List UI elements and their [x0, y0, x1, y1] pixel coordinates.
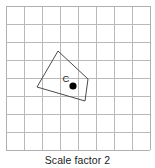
grid-lines — [6, 6, 150, 150]
center-point-group: C — [63, 73, 77, 90]
caption-label: Scale factor 2 — [0, 153, 155, 168]
diagram-canvas: C — [0, 0, 155, 168]
scale-factor-diagram: C Scale factor 2 — [0, 0, 155, 168]
center-point-label: C — [63, 73, 70, 84]
center-point-dot — [69, 82, 76, 89]
